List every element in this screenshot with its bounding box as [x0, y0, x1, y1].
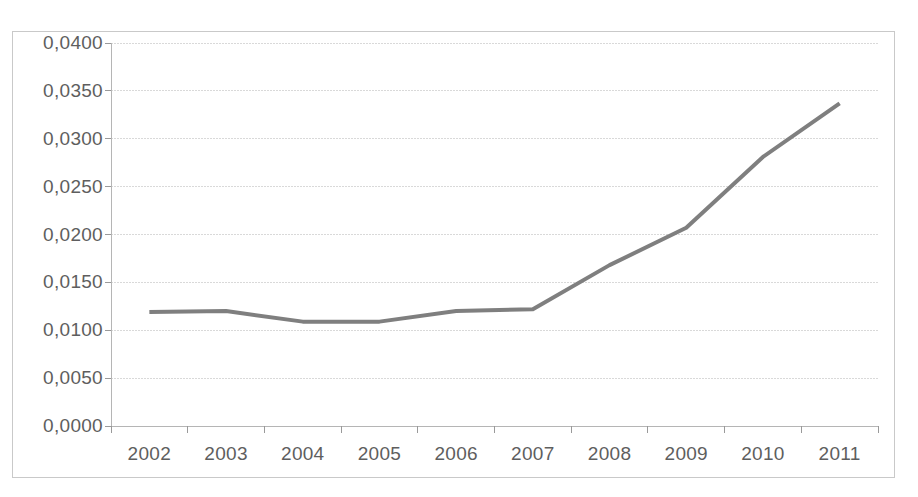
chart-root: 0,04000,03500,03000,02500,02000,01500,01… — [0, 0, 918, 497]
tickmark-group — [105, 43, 878, 433]
x-axis-tick-label: 2007 — [493, 444, 573, 463]
y-axis-tick-label: 0,0250 — [27, 177, 103, 196]
gridline-group — [111, 43, 878, 426]
data-line-1 — [149, 103, 839, 321]
chart-plot-frame: 0,04000,03500,03000,02500,02000,01500,01… — [12, 31, 895, 478]
x-axis-tick-label: 2011 — [800, 444, 880, 463]
x-axis-tick-label: 2010 — [723, 444, 803, 463]
y-axis-tick-label: 0,0200 — [27, 225, 103, 244]
x-axis-tick-label: 2006 — [416, 444, 496, 463]
x-axis-tick-label: 2004 — [263, 444, 343, 463]
chart-canvas — [13, 32, 894, 477]
y-axis-tick-label: 0,0300 — [27, 129, 103, 148]
x-axis-tick-label: 2003 — [186, 444, 266, 463]
x-axis-tick-label: 2008 — [570, 444, 650, 463]
x-axis-tick-label: 2002 — [109, 444, 189, 463]
y-axis-tick-label: 0,0100 — [27, 320, 103, 339]
y-axis-tick-label: 0,0000 — [27, 416, 103, 435]
x-axis-tick-label: 2009 — [646, 444, 726, 463]
y-axis-tick-label: 0,0050 — [27, 368, 103, 387]
y-axis-tick-label: 0,0400 — [27, 33, 103, 52]
y-axis-tick-label: 0,0150 — [27, 272, 103, 291]
y-axis-tick-label: 0,0350 — [27, 81, 103, 100]
x-axis-tick-label: 2005 — [339, 444, 419, 463]
top-caption — [300, 0, 680, 10]
data-series-group — [149, 103, 839, 321]
